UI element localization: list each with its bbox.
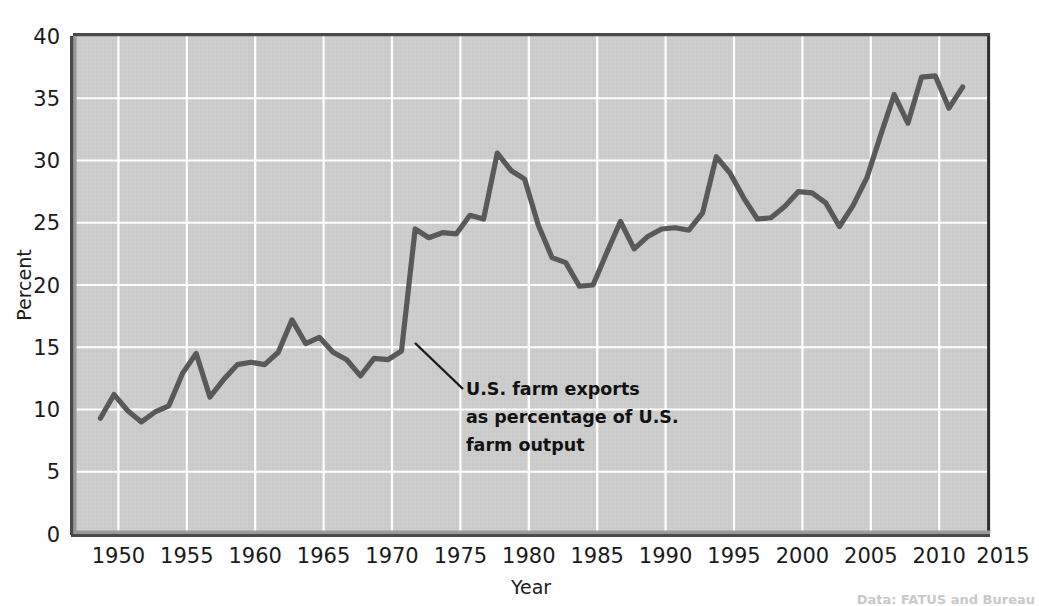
y-tick-label: 35: [33, 87, 60, 111]
y-tick-label: 10: [33, 398, 60, 422]
x-tick-label: 1975: [434, 544, 487, 568]
x-tick-label: 1995: [707, 544, 760, 568]
y-tick-label: 40: [33, 25, 60, 49]
x-tick-label: 2015: [976, 544, 1029, 568]
x-tick-label: 2000: [776, 544, 829, 568]
x-tick-label: 1960: [228, 544, 281, 568]
source-note: Data: FATUS and Bureau: [857, 592, 1035, 606]
x-tick-label: 1990: [639, 544, 692, 568]
plot-area: [71, 35, 990, 536]
x-tick-label: 1970: [365, 544, 418, 568]
x-tick-label: 1985: [570, 544, 623, 568]
y-tick-label: 15: [33, 336, 60, 360]
x-tick-label: 2005: [844, 544, 897, 568]
callout-line-2: as percentage of U.S.: [466, 407, 679, 427]
y-tick-label: 0: [47, 523, 60, 547]
chart-figure: 40 35 30 25 20 15 10 5 0 1950 1955 1960 …: [0, 0, 1039, 606]
x-tick-label: 2010: [912, 544, 965, 568]
x-axis-title: Year: [510, 576, 551, 598]
x-tick-label: 1950: [92, 544, 145, 568]
x-tick-label: 1965: [297, 544, 350, 568]
farm-exports-line-chart: 40 35 30 25 20 15 10 5 0 1950 1955 1960 …: [0, 0, 1039, 606]
y-tick-label: 5: [47, 460, 60, 484]
y-tick-label: 30: [33, 149, 60, 173]
callout-line-3: farm output: [466, 435, 585, 455]
callout-line-1: U.S. farm exports: [466, 379, 640, 399]
y-tick-label: 20: [33, 274, 60, 298]
x-tick-label: 1980: [502, 544, 555, 568]
y-axis-title: Percent: [13, 249, 35, 321]
x-tick-label: 1955: [160, 544, 213, 568]
y-tick-label: 25: [33, 211, 60, 235]
